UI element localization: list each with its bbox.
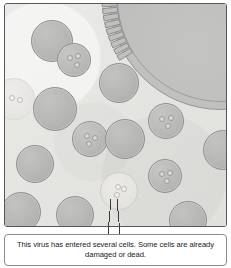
cell-infected xyxy=(57,43,91,77)
ring-segment xyxy=(108,32,124,42)
cell-faded xyxy=(4,78,35,120)
virus-particle xyxy=(67,55,73,61)
virus-infection-figure: This virus has entered several cells. So… xyxy=(0,0,231,268)
cell-damaged xyxy=(100,172,138,210)
caption-text: This virus has entered several cells. So… xyxy=(5,240,226,261)
cell-normal xyxy=(56,196,94,227)
virus-particle xyxy=(164,178,170,184)
cell-normal xyxy=(16,145,54,183)
virus-particle xyxy=(165,123,171,129)
ring-segment xyxy=(106,26,122,35)
ring-segment xyxy=(103,7,118,14)
virus-particle xyxy=(74,62,80,68)
ring-segment xyxy=(105,20,121,28)
virus-particle xyxy=(167,170,173,176)
virus-particle xyxy=(86,141,92,147)
cell-normal xyxy=(169,201,207,227)
ring-segment xyxy=(103,13,119,21)
cell-infected xyxy=(148,103,184,139)
caption-box: This virus has entered several cells. So… xyxy=(4,234,227,266)
virus-particle xyxy=(159,171,165,177)
virus-particle xyxy=(75,53,81,59)
cell-normal xyxy=(4,192,41,227)
cell-infected xyxy=(148,159,182,193)
virus-particle xyxy=(114,192,120,198)
cell-normal xyxy=(105,119,145,159)
cell-normal xyxy=(33,87,77,131)
cell-normal xyxy=(99,63,139,103)
illustration-panel xyxy=(4,3,227,227)
cell-infected xyxy=(72,121,108,157)
ring-segment xyxy=(102,3,117,7)
virus-particle xyxy=(9,95,15,101)
virus-particle xyxy=(92,135,98,141)
cell-normal xyxy=(203,130,227,170)
virus-particle xyxy=(84,133,90,139)
ring-segment xyxy=(114,43,130,54)
virus-particle xyxy=(17,97,23,103)
virus-particle xyxy=(121,186,127,192)
virus-particle xyxy=(159,116,165,122)
ring-segment xyxy=(117,48,132,60)
ring-segment xyxy=(111,37,127,48)
virus-particle xyxy=(168,115,174,121)
